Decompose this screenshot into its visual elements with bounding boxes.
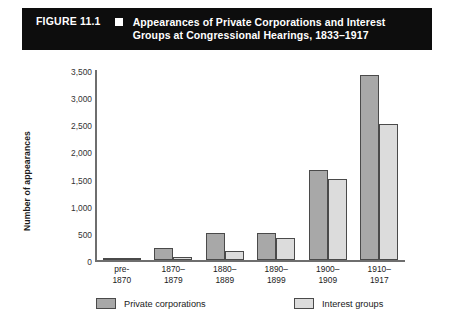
bar-group	[148, 70, 200, 260]
y-tick-2500: 2,500	[52, 121, 92, 131]
legend-label: Interest groups	[322, 299, 383, 309]
bar-group	[96, 70, 148, 260]
legend-swatch	[96, 298, 116, 309]
bar-interest-groups[interactable]	[328, 179, 347, 260]
figure-title-line-2: Groups at Congressional Hearings, 1833–1…	[133, 29, 386, 43]
y-tick-1000: 1,000	[52, 203, 92, 213]
y-axis-tick-labels: 05001,0001,5002,0002,5003,0003,500	[52, 72, 92, 260]
bar-interest-groups[interactable]	[379, 124, 398, 260]
bar-group	[302, 70, 354, 260]
y-tick-500: 500	[52, 230, 92, 240]
bar-group	[251, 70, 303, 260]
legend-item-interest-groups[interactable]: Interest groups	[294, 298, 383, 309]
legend-label: Private corporations	[124, 299, 206, 309]
y-tick-1500: 1,500	[52, 176, 92, 186]
x-tick-label: 1890–1899	[251, 264, 303, 285]
x-tick-label: 1900–1909	[302, 264, 354, 285]
chart-legend: Private corporationsInterest groups	[96, 298, 426, 316]
bar-interest-groups[interactable]	[122, 258, 141, 260]
bar-chart: Number of appearances 05001,0001,5002,00…	[0, 58, 455, 318]
bar-interest-groups[interactable]	[173, 257, 192, 260]
bar-private-corporations[interactable]	[206, 233, 225, 260]
y-tick-0: 0	[52, 257, 92, 267]
figure-title-banner: FIGURE 11.1 Appearances of Private Corpo…	[22, 8, 432, 50]
bar-private-corporations[interactable]	[103, 258, 122, 260]
bar-private-corporations[interactable]	[154, 248, 173, 260]
x-axis-line	[95, 260, 405, 262]
bar-private-corporations[interactable]	[360, 75, 379, 260]
plot-area	[96, 70, 405, 260]
bar-group	[354, 70, 406, 260]
x-tick-label: 1880–1889	[199, 264, 251, 285]
y-axis-label: Number of appearances	[22, 116, 32, 246]
y-tick-3500: 3,500	[52, 67, 92, 77]
legend-swatch	[294, 298, 314, 309]
bar-interest-groups[interactable]	[225, 251, 244, 260]
square-bullet-icon	[115, 18, 123, 26]
bar-group	[199, 70, 251, 260]
x-tick-label: 1870–1879	[148, 264, 200, 285]
figure-number: FIGURE 11.1	[36, 15, 101, 27]
legend-item-private-corporations[interactable]: Private corporations	[96, 298, 206, 309]
x-tick-label: pre-1870	[96, 264, 148, 285]
bar-interest-groups[interactable]	[276, 238, 295, 260]
x-tick-label: 1910–1917	[354, 264, 406, 285]
y-tick-3000: 3,000	[52, 94, 92, 104]
bar-private-corporations[interactable]	[257, 233, 276, 260]
figure-title: Appearances of Private Corporations and …	[133, 16, 386, 43]
figure-title-line-1: Appearances of Private Corporations and …	[133, 16, 386, 30]
y-tick-2000: 2,000	[52, 148, 92, 158]
x-axis-tick-labels: pre-18701870–18791880–18891890–18991900–…	[96, 264, 405, 294]
bar-private-corporations[interactable]	[309, 170, 328, 260]
